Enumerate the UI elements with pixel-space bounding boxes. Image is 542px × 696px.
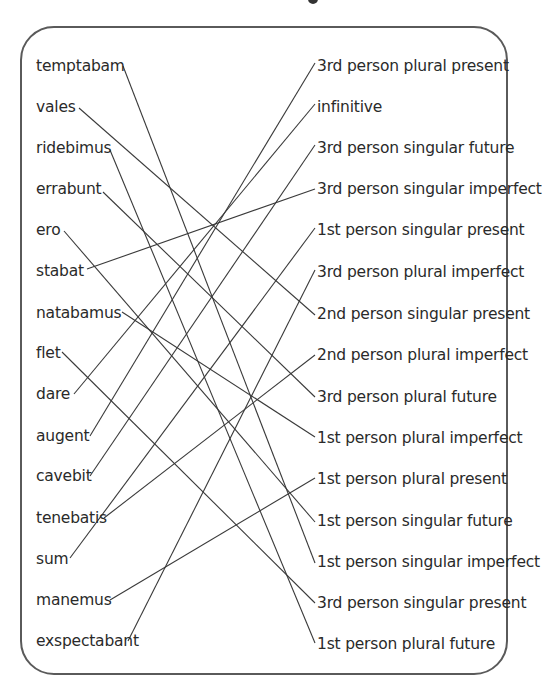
verb-form-item[interactable]: 3rd person plural imperfect bbox=[317, 263, 524, 281]
latin-word-vales[interactable]: vales bbox=[36, 98, 76, 116]
latin-word-dare[interactable]: dare bbox=[36, 385, 70, 403]
connection-line-tenebatis bbox=[104, 355, 315, 518]
latin-word-ridebimus[interactable]: ridebimus bbox=[36, 139, 111, 157]
connection-line-manemus bbox=[110, 478, 315, 600]
latin-word-manemus[interactable]: manemus bbox=[36, 591, 112, 609]
verb-form-item[interactable]: infinitive bbox=[317, 98, 382, 116]
verb-form-item[interactable]: 3rd person singular imperfect bbox=[317, 180, 542, 198]
connection-line-cavebit bbox=[90, 145, 315, 476]
latin-word-sum[interactable]: sum bbox=[36, 550, 68, 568]
latin-word-exspectabant[interactable]: exspectabant bbox=[36, 632, 139, 650]
latin-word-temptabam[interactable]: temptabam bbox=[36, 57, 125, 75]
verb-form-item[interactable]: 1st person singular future bbox=[317, 512, 513, 530]
verb-form-item[interactable]: 1st person plural present bbox=[317, 470, 507, 488]
latin-word-cavebit[interactable]: cavebit bbox=[36, 467, 92, 485]
latin-word-augent[interactable]: augent bbox=[36, 427, 89, 445]
verb-form-item[interactable]: 1st person plural future bbox=[317, 635, 495, 653]
latin-word-flet[interactable]: flet bbox=[36, 344, 61, 362]
latin-word-errabunt[interactable]: errabunt bbox=[36, 180, 101, 198]
connection-line-vales bbox=[79, 108, 315, 315]
latin-word-natabamus[interactable]: natabamus bbox=[36, 304, 121, 322]
verb-form-item[interactable]: 2nd person plural imperfect bbox=[317, 346, 528, 364]
verb-form-item[interactable]: 1st person plural imperfect bbox=[317, 429, 522, 447]
verb-form-item[interactable]: 3rd person plural future bbox=[317, 388, 497, 406]
verb-form-item[interactable]: 2nd person singular present bbox=[317, 305, 530, 323]
verb-form-item[interactable]: 3rd person plural present bbox=[317, 57, 509, 75]
verb-form-item[interactable]: 1st person singular present bbox=[317, 221, 525, 239]
latin-word-stabat[interactable]: stabat bbox=[36, 262, 84, 280]
verb-form-item[interactable]: 3rd person singular future bbox=[317, 139, 514, 157]
verb-form-item[interactable]: 3rd person singular present bbox=[317, 594, 526, 612]
connection-line-natabamus bbox=[122, 312, 315, 437]
verb-form-item[interactable]: 1st person singular imperfect bbox=[317, 553, 540, 571]
connection-line-stabat bbox=[87, 189, 315, 269]
latin-word-ero[interactable]: ero bbox=[36, 221, 60, 239]
latin-word-tenebatis[interactable]: tenebatis bbox=[36, 509, 107, 527]
connection-line-ridebimus bbox=[110, 150, 315, 643]
